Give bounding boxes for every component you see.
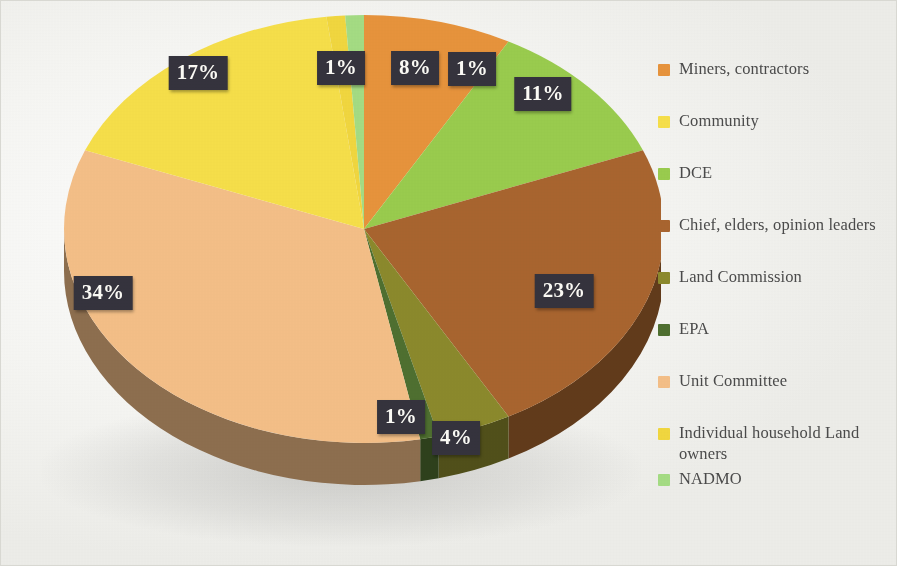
legend-label: NADMO [679,469,742,490]
legend-swatch-icon [658,168,670,180]
pie-data-label: 17% [169,56,228,90]
legend-swatch-icon [658,376,670,388]
legend-label: Unit Committee [679,371,787,392]
legend-label: EPA [679,319,709,340]
pie-data-label: 1% [448,52,496,86]
legend-item-epa[interactable]: EPA [658,319,896,371]
legend-label: Chief, elders, opinion leaders [679,215,876,236]
pie-data-label: 11% [514,77,571,111]
legend-item-dce[interactable]: DCE [658,163,896,215]
pie-data-label: 8% [391,51,439,85]
legend-label: Miners, contractors [679,59,809,80]
legend-label: DCE [679,163,712,184]
legend-item-land-commission[interactable]: Land Commission [658,267,896,319]
legend-label: Land Commission [679,267,802,288]
legend-swatch-icon [658,428,670,440]
legend-label: Community [679,111,759,132]
legend-swatch-icon [658,272,670,284]
pie-chart-plot-area: 1%8%1%11%23%4%1%34%17% [1,1,661,566]
pie-data-label: 4% [432,421,480,455]
legend-item-nadmo[interactable]: NADMO [658,469,896,515]
pie-data-label: 23% [535,274,594,308]
legend-swatch-icon [658,116,670,128]
legend-item-unit-committee[interactable]: Unit Committee [658,371,896,423]
legend-item-community[interactable]: Community [658,111,896,163]
pie-data-label: 1% [317,51,365,85]
legend-swatch-icon [658,220,670,232]
pie-data-label: 1% [377,400,425,434]
legend-label: Individual household Land owners [679,423,896,464]
legend-swatch-icon [658,474,670,486]
legend-swatch-icon [658,324,670,336]
legend-item-chief-elders-opinion-leaders[interactable]: Chief, elders, opinion leaders [658,215,896,267]
figure-canvas: 1%8%1%11%23%4%1%34%17% Miners, contracto… [0,0,897,566]
legend-item-individual-household-land-owners[interactable]: Individual household Land owners [658,423,896,469]
pie-data-label: 34% [74,276,133,310]
chart-legend: Miners, contractorsCommunityDCEChief, el… [658,59,896,515]
legend-swatch-icon [658,64,670,76]
legend-item-miners-contractors[interactable]: Miners, contractors [658,59,896,111]
